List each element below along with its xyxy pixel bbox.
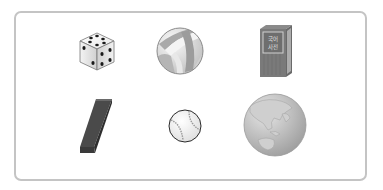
globe-icon	[242, 92, 308, 158]
dice-icon	[76, 29, 118, 73]
volleyball-icon	[155, 26, 205, 76]
block-icon	[78, 97, 114, 155]
book-cover-line2: 사전	[268, 43, 278, 51]
baseball-icon	[167, 108, 203, 144]
book-cover-line1: 국어	[268, 35, 278, 43]
book-icon: 국어 사전	[258, 23, 294, 79]
